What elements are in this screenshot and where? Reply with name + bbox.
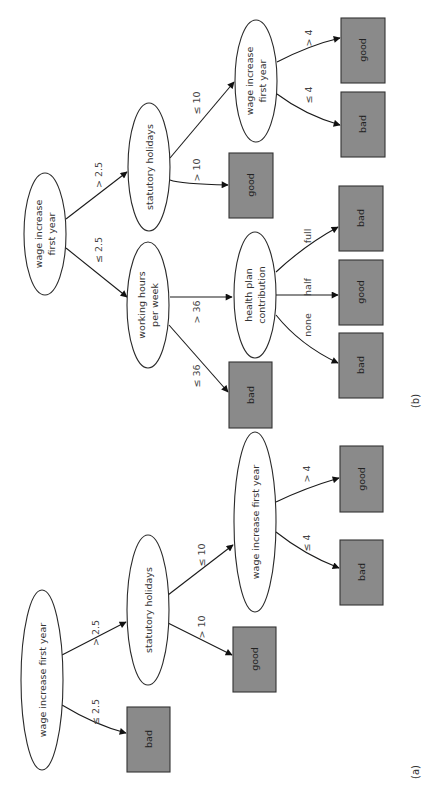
- leaf-a-stat-gt: good: [233, 627, 276, 692]
- edge-label-a-stat-le: ≤ 10: [196, 543, 207, 566]
- leaf-b-health-none: bad: [339, 333, 383, 398]
- node-a-statutory: statutory holidays: [127, 535, 169, 685]
- edge-label-a-wage-le: ≤ 4: [301, 534, 312, 551]
- leaf-a-wage-gt-label: good: [356, 467, 367, 491]
- node-a-wage2: wage increase first year: [234, 432, 276, 612]
- leaf-a-wage-le-label: bad: [356, 563, 367, 581]
- edge-label-b-health-none: none: [302, 313, 313, 337]
- caption-b: (b): [410, 394, 421, 408]
- edge-label-b-health-full: full: [302, 229, 313, 244]
- leaf-a-wage-gt: good: [340, 446, 383, 512]
- node-b-hours-label-line1: working hours: [136, 271, 147, 338]
- node-b-hours-label-line2: per week: [149, 283, 160, 327]
- edge-label-a-root-le: ≤ 2.5: [90, 699, 101, 725]
- leaf-a-stat-gt-label: good: [249, 647, 260, 671]
- edge-label-b-root-le: ≤ 2.5: [93, 237, 104, 263]
- node-b-hours: working hours per week: [127, 242, 169, 368]
- node-a-root: wage increase first year: [21, 590, 63, 770]
- node-b-statutory-label: statutory holidays: [144, 124, 155, 210]
- node-a-wage2-label: wage increase first year: [250, 465, 261, 579]
- leaf-b-wage-gt: good: [341, 18, 385, 83]
- node-b-wage2-label-line2: first year: [257, 60, 268, 103]
- decision-tree-figure: ≤ 2.5 > 2.5 > 10 ≤ 10 ≤ 4 > 4 wage incre…: [0, 0, 425, 785]
- edge-b-stat-le: [170, 82, 234, 158]
- leaf-b-wage-le: bad: [341, 92, 385, 157]
- edge-label-b-hours-le: ≤ 36: [191, 364, 202, 387]
- edge-label-b-wage-le: ≤ 4: [303, 86, 314, 103]
- edge-label-b-health-half: half: [302, 277, 313, 295]
- node-b-root-label-line2: first year: [46, 213, 57, 256]
- edge-label-a-wage-gt: > 4: [301, 465, 312, 482]
- edge-label-a-root-gt: > 2.5: [90, 620, 101, 646]
- leaf-b-hours-le: bad: [229, 362, 272, 428]
- leaf-b-stat-gt-label: good: [245, 173, 256, 197]
- edge-label-b-stat-le: ≤ 10: [191, 91, 202, 114]
- leaf-b-wage-gt-label: good: [357, 38, 368, 62]
- caption-a: (a): [410, 765, 421, 779]
- leaf-b-health-half: good: [339, 260, 383, 325]
- node-b-wage2-label-line1: wage increase: [244, 47, 255, 116]
- edge-label-b-stat-gt: > 10: [191, 158, 202, 181]
- leaf-a-root-le-label: bad: [143, 730, 154, 748]
- leaf-b-health-full: bad: [339, 186, 383, 251]
- node-b-root: wage increase first year: [24, 173, 66, 295]
- node-b-root-label-line1: wage increase: [33, 200, 44, 269]
- node-b-wage2: wage increase first year: [235, 20, 277, 142]
- node-b-statutory: statutory holidays: [128, 103, 170, 231]
- leaf-b-stat-gt: good: [229, 153, 273, 218]
- leaf-a-root-le: bad: [127, 707, 170, 772]
- edge-label-b-root-gt: > 2.5: [93, 162, 104, 188]
- edge-label-b-wage-gt: > 4: [303, 29, 314, 46]
- leaf-b-wage-le-label: bad: [357, 115, 368, 133]
- node-b-health-label-line2: contribution: [256, 266, 267, 324]
- node-b-health: health plan contribution: [234, 232, 276, 358]
- edge-label-a-stat-gt: > 10: [196, 615, 207, 638]
- node-a-root-label: wage increase first year: [37, 623, 48, 737]
- leaf-a-wage-le: bad: [340, 540, 383, 605]
- node-b-health-label-line1: health plan: [243, 268, 254, 322]
- leaf-b-hours-le-label: bad: [245, 386, 256, 404]
- tree-a: ≤ 2.5 > 2.5 > 10 ≤ 10 ≤ 4 > 4 wage incre…: [21, 432, 421, 779]
- leaf-b-health-none-label: bad: [355, 356, 366, 374]
- edge-label-b-hours-gt: > 36: [191, 300, 202, 323]
- leaf-b-health-half-label: good: [355, 280, 366, 304]
- tree-b: ≤ 2.5 > 2.5 ≤ 36 > 36 none half full > 1…: [24, 18, 421, 428]
- leaf-b-health-full-label: bad: [355, 209, 366, 227]
- node-a-statutory-label: statutory holidays: [143, 567, 154, 653]
